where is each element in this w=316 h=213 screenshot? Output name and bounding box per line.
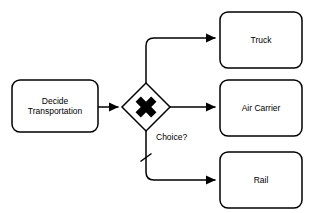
node-air-carrier[interactable] — [220, 80, 302, 136]
node-truck[interactable] — [220, 12, 302, 68]
node-rail[interactable] — [220, 152, 302, 208]
node-decide-transportation[interactable] — [12, 80, 98, 132]
edge-gateway-to-truck — [146, 38, 216, 83]
flowchart-canvas: Decide Transportation Truck Air Carrier … — [0, 0, 316, 213]
flowchart-drawing-surface — [0, 0, 316, 213]
node-gateway-choice[interactable] — [122, 83, 170, 131]
gateway-choice-label: Choice? — [156, 132, 187, 142]
